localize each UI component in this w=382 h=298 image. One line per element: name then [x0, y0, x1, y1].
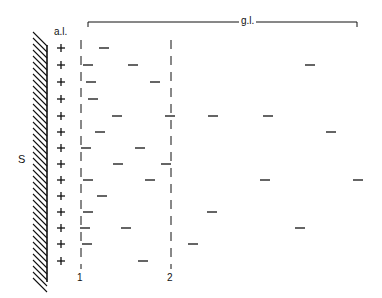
hatch-line: [33, 86, 47, 100]
hatch-line: [33, 278, 47, 292]
hatch-line: [33, 272, 47, 286]
hatch-line: [33, 176, 47, 190]
hatch-line: [33, 110, 47, 124]
hatch-line: [33, 50, 47, 64]
hatch-line: [33, 200, 47, 214]
hatch-line: [33, 218, 47, 232]
hatch-line: [33, 140, 47, 154]
hatch-line: [33, 194, 47, 208]
hatch-line: [33, 104, 47, 118]
hatch-line: [33, 32, 47, 46]
adhesion-diagram: [0, 0, 382, 298]
hatch-line: [33, 152, 47, 166]
hatch-line: [33, 128, 47, 142]
label-gl: g.l.: [239, 15, 256, 26]
hatch-line: [33, 206, 47, 220]
hatch-line: [33, 164, 47, 178]
label-surface: S: [18, 153, 25, 165]
hatch-line: [33, 134, 47, 148]
label-column-1: 1: [77, 272, 83, 283]
hatch-line: [33, 188, 47, 202]
hatch-line: [33, 62, 47, 76]
hatch-line: [33, 122, 47, 136]
hatch-line: [33, 74, 47, 88]
hatch-line: [33, 44, 47, 58]
hatch-line: [33, 98, 47, 112]
label-al: a.l.: [54, 26, 67, 37]
hatch-line: [33, 182, 47, 196]
gl-bracket: [88, 22, 357, 27]
hatch-line: [33, 260, 47, 274]
hatch-line: [33, 80, 47, 94]
hatch-line: [33, 242, 47, 256]
hatch-line: [33, 38, 47, 52]
hatch-line: [33, 116, 47, 130]
hatch-line: [33, 170, 47, 184]
hatch-line: [33, 68, 47, 82]
hatch-line: [33, 254, 47, 268]
hatch-line: [33, 266, 47, 280]
hatch-line: [33, 224, 47, 238]
hatch-line: [33, 236, 47, 250]
hatch-line: [33, 230, 47, 244]
hatch-line: [33, 158, 47, 172]
hatch-line: [33, 56, 47, 70]
hatch-line: [33, 146, 47, 160]
hatch-line: [33, 248, 47, 262]
hatch-line: [33, 212, 47, 226]
hatch-line: [33, 92, 47, 106]
label-column-2: 2: [167, 272, 173, 283]
